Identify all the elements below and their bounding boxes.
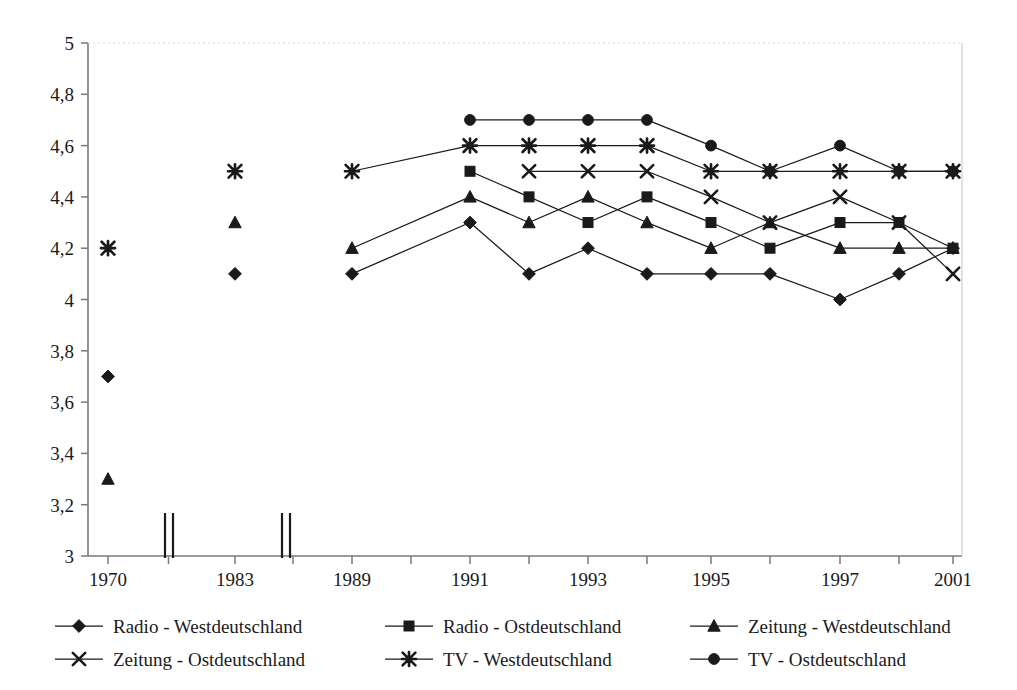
- x-tick-label: 1983: [216, 569, 254, 590]
- x-tick-label: 1991: [451, 569, 489, 590]
- data-point-circle: [524, 115, 535, 126]
- y-tick-label: 5: [65, 33, 75, 54]
- data-point-circle: [948, 166, 959, 177]
- legend-label: TV - Westdeutschland: [443, 649, 612, 670]
- series-line-segment: [647, 146, 711, 172]
- data-point-circle: [583, 115, 594, 126]
- x-tick-label: 2001: [934, 569, 972, 590]
- series-line-segment: [840, 146, 899, 172]
- data-point-star: [704, 164, 718, 178]
- data-point-circle: [642, 115, 653, 126]
- x-tick-label: 1989: [333, 569, 371, 590]
- data-point-cross: [705, 191, 717, 203]
- y-tick-label: 4,6: [50, 136, 74, 157]
- chart-legend: Radio - WestdeutschlandRadio - Ostdeutsc…: [55, 616, 951, 670]
- data-point-diamond: [102, 370, 115, 383]
- data-point-star: [402, 652, 416, 666]
- legend-item[interactable]: Zeitung - Ostdeutschland: [55, 649, 306, 670]
- data-point-diamond: [705, 267, 718, 280]
- legend-label: Radio - Ostdeutschland: [443, 616, 622, 637]
- y-tick-label: 3,4: [50, 443, 74, 464]
- legend-item[interactable]: TV - Westdeutschland: [385, 649, 612, 670]
- series-line-segment: [899, 223, 953, 249]
- series-line-segment: [647, 223, 711, 249]
- y-tick-label: 3: [65, 546, 75, 567]
- y-tick-label: 4,8: [50, 84, 74, 105]
- y-axis-tick-labels: 54,84,64,44,243,83,63,43,23: [50, 33, 74, 567]
- axis-break-marks: [165, 513, 290, 558]
- series-diamond: [102, 216, 960, 383]
- data-point-diamond: [764, 267, 777, 280]
- data-point-cross: [834, 191, 846, 203]
- data-point-diamond: [346, 267, 359, 280]
- series-line-segment: [529, 248, 588, 274]
- data-point-star: [345, 164, 359, 178]
- data-point-star: [101, 241, 115, 255]
- data-point-square: [706, 218, 716, 228]
- y-tick-label: 3,6: [50, 392, 74, 413]
- series-triangle: [102, 191, 959, 485]
- series-line-segment: [352, 197, 470, 248]
- data-point-diamond: [834, 293, 847, 306]
- x-axis-tick-labels: 19701983198919911993199519972001: [89, 569, 972, 590]
- data-point-triangle: [464, 191, 476, 203]
- data-point-cross: [947, 268, 959, 280]
- data-point-square: [404, 621, 414, 631]
- y-tick-label: 4: [65, 290, 75, 311]
- legend-item[interactable]: Radio - Ostdeutschland: [385, 616, 622, 637]
- data-point-circle: [706, 140, 717, 151]
- data-point-square: [583, 218, 593, 228]
- series-line-segment: [647, 120, 711, 146]
- media-usage-line-chart: 54,84,64,44,243,83,63,43,231970198319891…: [0, 0, 1017, 690]
- data-point-triangle: [346, 242, 358, 254]
- data-point-star: [522, 139, 536, 153]
- data-point-triangle: [641, 216, 653, 228]
- series-line-segment: [470, 171, 529, 197]
- series-line-segment: [840, 274, 899, 300]
- legend-item[interactable]: TV - Ostdeutschland: [690, 649, 906, 670]
- series-line-segment: [770, 146, 840, 172]
- series-line-segment: [588, 248, 647, 274]
- legend-label: Radio - Westdeutschland: [113, 616, 303, 637]
- legend-item[interactable]: Zeitung - Westdeutschland: [690, 616, 951, 637]
- data-point-circle: [835, 140, 846, 151]
- series-line-segment: [770, 197, 840, 223]
- data-point-square: [765, 243, 775, 253]
- x-tick-label: 1993: [569, 569, 607, 590]
- data-point-star: [833, 164, 847, 178]
- series-line-segment: [647, 197, 711, 223]
- data-point-triangle: [705, 242, 717, 254]
- axes: [81, 43, 962, 564]
- data-point-diamond: [73, 620, 86, 633]
- data-point-diamond: [641, 267, 654, 280]
- y-tick-label: 4,4: [50, 187, 74, 208]
- series-line-segment: [647, 171, 711, 197]
- data-point-triangle: [582, 191, 594, 203]
- data-point-circle: [709, 654, 720, 665]
- x-tick-label: 1995: [692, 569, 730, 590]
- legend-label: Zeitung - Westdeutschland: [748, 616, 951, 637]
- y-tick-label: 3,8: [50, 341, 74, 362]
- series-line-segment: [470, 223, 529, 274]
- series-line-segment: [352, 146, 470, 172]
- series-line-segment: [711, 197, 770, 223]
- series-line-segment: [711, 146, 770, 172]
- data-point-square: [835, 218, 845, 228]
- data-point-star: [581, 139, 595, 153]
- data-point-triangle: [523, 216, 535, 228]
- data-point-square: [642, 192, 652, 202]
- legend-label: Zeitung - Ostdeutschland: [113, 649, 306, 670]
- data-point-diamond: [229, 267, 242, 280]
- legend-label: TV - Ostdeutschland: [748, 649, 906, 670]
- y-tick-label: 3,2: [50, 495, 74, 516]
- data-point-triangle: [229, 216, 241, 228]
- data-point-circle: [465, 115, 476, 126]
- x-tick-label: 1997: [821, 569, 859, 590]
- legend-item[interactable]: Radio - Westdeutschland: [55, 616, 303, 637]
- data-point-star: [640, 139, 654, 153]
- data-point-diamond: [582, 242, 595, 255]
- series-line-segment: [840, 197, 899, 223]
- x-tick-label: 1970: [89, 569, 127, 590]
- data-point-star: [463, 139, 477, 153]
- series-line-segment: [770, 274, 840, 300]
